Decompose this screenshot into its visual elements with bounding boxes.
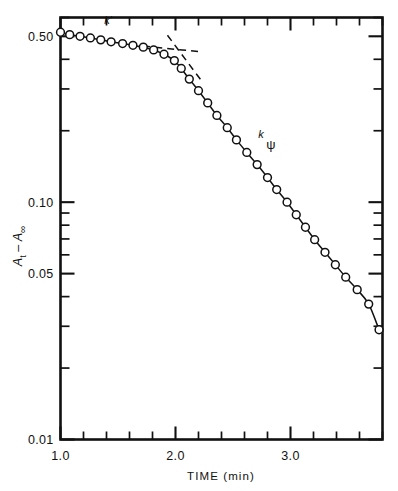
svg-text:At – A∞: At – A∞ (11, 226, 28, 267)
annotation-k-psi-main: k (258, 128, 264, 140)
kinetics-log-plot: 1.02.03.0 0.500.100.050.01 TIME (min) At… (0, 0, 398, 491)
y-axis-subscript-infinity: ∞ (17, 226, 28, 233)
y-tick-label: 0.05 (28, 267, 54, 281)
annotation-k-psi: k ψ (258, 128, 275, 152)
y-axis-tick-labels: 0.500.100.050.01 (28, 30, 54, 447)
figure-container: 1.02.03.0 0.500.100.050.01 TIME (min) At… (0, 0, 398, 491)
x-tick-label: 2.0 (166, 449, 184, 463)
y-axis-title: At – A∞ (11, 226, 28, 267)
x-tick-label: 3.0 (281, 449, 299, 463)
x-axis-title: TIME (min) (187, 470, 255, 482)
y-axis-ticks-right (369, 18, 383, 440)
data-curve (61, 32, 380, 330)
y-tick-label: 0.10 (28, 196, 54, 210)
x-tick-label: 1.0 (51, 449, 69, 463)
y-tick-label: 0.01 (28, 433, 54, 447)
plot-frame (61, 18, 383, 440)
y-axis-minus: – (11, 245, 25, 252)
y-axis-symbol-a2: A (11, 233, 25, 242)
annotation-k-psi-subscript: ψ (266, 137, 275, 152)
data-point-markers (57, 28, 383, 333)
y-axis-ticks-left (61, 18, 75, 440)
annotation-k-prime: k′ (104, 14, 113, 26)
x-axis-ticks-bottom (61, 427, 383, 440)
y-axis-symbol-a: A (11, 258, 25, 267)
y-tick-label: 0.50 (28, 30, 54, 44)
x-axis-tick-labels: 1.02.03.0 (51, 449, 299, 463)
